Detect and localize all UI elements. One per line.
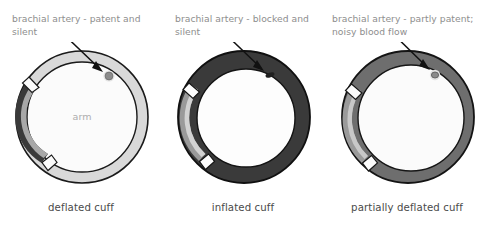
callout-label-partially-deflated: brachial artery - partly patent; noisy b… [332,12,486,38]
caption-deflated-cuff: deflated cuff [0,202,162,213]
panel-partially-deflated-cuff: brachial artery - partly patent; noisy b… [322,0,484,229]
panel-inflated-cuff: brachial artery - blocked and silent inf… [162,0,324,229]
cuff-artery-figure: brachial artery - patent and silent arm … [0,0,486,229]
callout-label-deflated: brachial artery - patent and silent [12,12,162,38]
caption-inflated-cuff: inflated cuff [162,202,324,213]
arm-circle [197,69,295,167]
callout-label-inflated: brachial artery - blocked and silent [175,12,327,38]
panel-deflated-cuff: brachial artery - patent and silent arm … [0,0,162,229]
artery-partly-patent-icon [431,72,438,78]
artery-patent-icon [105,72,113,80]
arm-label-text: arm [73,111,92,122]
caption-partially-deflated-cuff: partially deflated cuff [322,202,486,213]
arm-circle [358,65,464,171]
diagram-inflated-cuff [170,42,318,192]
diagram-deflated-cuff: arm [8,42,156,192]
diagram-partially-deflated-cuff [334,42,482,192]
